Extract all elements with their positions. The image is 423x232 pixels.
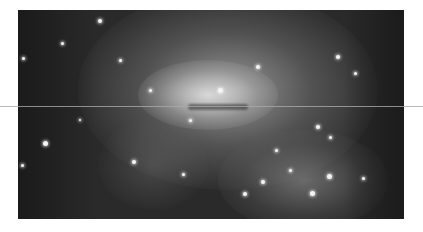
star	[182, 173, 185, 176]
star	[329, 136, 332, 139]
star	[354, 72, 357, 75]
star	[189, 119, 192, 122]
star	[362, 177, 365, 180]
star	[22, 57, 25, 60]
star	[327, 174, 332, 179]
star	[132, 160, 136, 164]
star	[218, 88, 223, 93]
dust-lane	[188, 104, 248, 110]
star	[316, 125, 320, 129]
star	[256, 65, 260, 69]
faint-nebula	[98, 120, 208, 210]
star	[149, 89, 152, 92]
star	[98, 19, 102, 23]
star	[310, 191, 315, 196]
star	[336, 55, 340, 59]
star	[289, 169, 292, 172]
galaxy-image	[18, 10, 404, 219]
star	[275, 149, 278, 152]
galaxy-halo	[78, 10, 378, 190]
star	[79, 119, 81, 121]
left-vignette	[18, 10, 98, 219]
star	[119, 59, 122, 62]
star	[61, 42, 64, 45]
star	[43, 141, 48, 146]
star	[243, 192, 247, 196]
galaxy-core	[138, 60, 278, 130]
star	[21, 164, 24, 167]
star-forming-region	[218, 130, 388, 219]
scan-line	[0, 106, 423, 107]
right-vignette	[344, 10, 404, 219]
star	[261, 180, 265, 184]
